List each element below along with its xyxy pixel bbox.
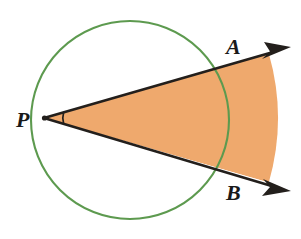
geometry-figure: P A B [0, 0, 301, 239]
angle-arc-icon [63, 112, 64, 123]
label-p: P [15, 107, 30, 132]
label-a: A [224, 34, 241, 59]
geometry-diagram: P A B [0, 0, 301, 239]
vertex-dot-p [42, 115, 47, 120]
label-b: B [225, 180, 241, 205]
